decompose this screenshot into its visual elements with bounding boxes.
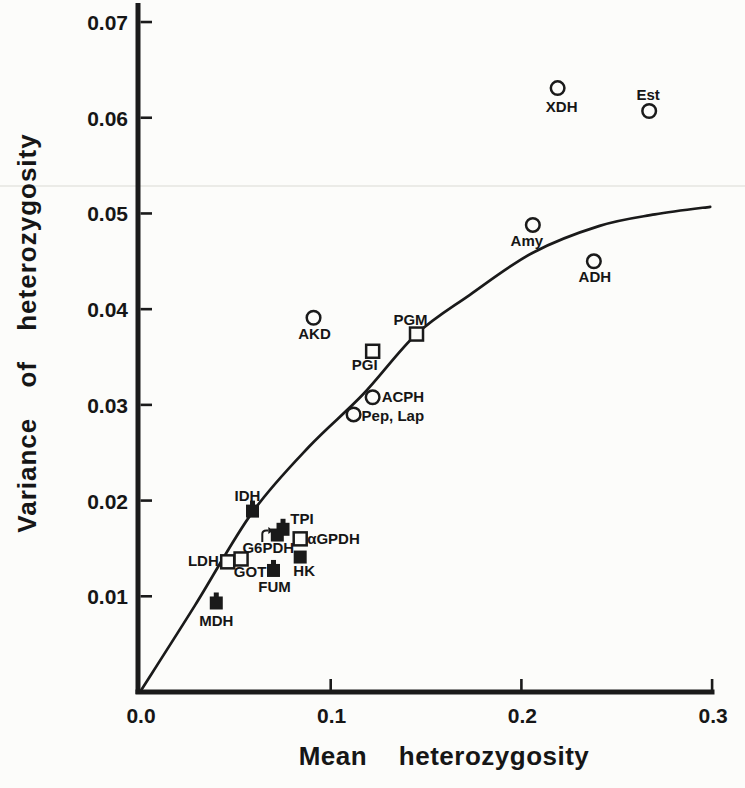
- y-tick-label: 0.03: [87, 394, 128, 417]
- marker-est: [642, 104, 656, 118]
- point-label-pgi: PGI: [352, 356, 378, 373]
- y-tick-label: 0.04: [87, 298, 128, 321]
- point-label-pep-lap: Pep, Lap: [362, 407, 425, 424]
- point-label-got: GOT: [234, 563, 267, 580]
- plot-canvas: 0.010.020.030.040.050.060.070.00.10.20.3…: [0, 0, 745, 788]
- figure-root: 0.010.020.030.040.050.060.070.00.10.20.3…: [0, 0, 745, 788]
- x-tick-label: 0.3: [698, 704, 727, 727]
- marker-fum: [267, 564, 280, 577]
- y-tick-label: 0.05: [87, 202, 128, 225]
- point-label-ldh: LDH: [188, 552, 219, 569]
- point-label-akd: AKD: [298, 325, 331, 342]
- y-axis-title: Variance of heterozygosity: [12, 133, 43, 532]
- y-tick-label: 0.01: [87, 585, 128, 608]
- y-tick-label: 0.02: [87, 490, 128, 513]
- marker-idh: [246, 505, 259, 518]
- point-label-idh: IDH: [235, 487, 261, 504]
- x-axis-title: Mean heterozygosity: [144, 741, 744, 772]
- marker-fum-nub: [271, 560, 276, 565]
- marker-mdh: [210, 596, 223, 609]
- marker-xdh: [551, 81, 565, 95]
- point-label-acph: ACPH: [382, 388, 425, 405]
- marker-gpdh: [294, 532, 307, 545]
- point-label-est: Est: [636, 86, 659, 103]
- point-label-fum: FUM: [258, 578, 291, 595]
- point-label-amy: Amy: [511, 232, 544, 249]
- point-label-pgm: PGM: [393, 311, 427, 328]
- marker-adh: [587, 255, 601, 269]
- y-tick-label: 0.07: [87, 11, 128, 34]
- marker-amy: [526, 218, 540, 232]
- point-label-mdh: MDH: [199, 612, 233, 629]
- marker-akd: [307, 311, 321, 325]
- marker-ldh: [221, 555, 234, 568]
- point-label-gpdh: αGPDH: [307, 530, 360, 547]
- point-label-adh: ADH: [579, 268, 612, 285]
- marker-tpi-nub: [281, 519, 286, 524]
- marker-pep-lap: [347, 408, 361, 422]
- marker-mdh-nub: [214, 592, 219, 597]
- point-label-xdh: XDH: [546, 98, 578, 115]
- point-label-g6pdh: G6PDH: [242, 539, 294, 556]
- x-tick-label: 0.1: [317, 704, 347, 727]
- marker-acph: [366, 390, 380, 404]
- y-tick-label: 0.06: [87, 107, 128, 130]
- point-label-hk: HK: [293, 562, 315, 579]
- x-tick-label: 0.0: [126, 704, 155, 727]
- x-tick-label: 0.2: [508, 704, 537, 727]
- marker-pgm: [410, 328, 423, 341]
- point-label-tpi: TPI: [290, 510, 313, 527]
